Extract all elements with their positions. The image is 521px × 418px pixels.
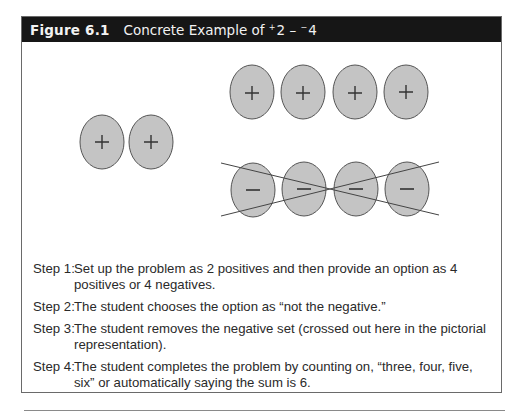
positive-counter [333,65,377,119]
step-text: The student chooses the option as “not t… [73,299,493,315]
negative-counter [282,162,326,216]
positive-counter [80,115,124,169]
step-item: Step 3: The student removes the negative… [33,321,493,353]
positive-option-counters [230,65,428,119]
step-label: Step 3: [33,321,73,353]
step-label: Step 2: [33,299,73,315]
counter-diagram [22,17,503,257]
step-item: Step 4: The student completes the proble… [33,359,493,391]
positive-counter [281,65,325,119]
steps-list: Step 1: Set up the problem as 2 positive… [33,261,493,397]
starting-set-positive-counters [80,115,173,169]
positive-counter [129,115,173,169]
bottom-separator-rule [24,410,505,411]
step-text: The student completes the problem by cou… [73,359,493,391]
negative-option-counters [221,162,439,217]
step-item: Step 2: The student chooses the option a… [33,299,493,315]
figure-box: Figure 6.1 Concrete Example of +2 – −4 [21,16,502,393]
negative-counter [334,162,378,216]
step-label: Step 4: [33,359,73,391]
positive-counter [384,65,428,119]
step-text: Set up the problem as 2 positives and th… [73,261,493,293]
step-item: Step 1: Set up the problem as 2 positive… [33,261,493,293]
positive-counter [230,65,274,119]
step-label: Step 1: [33,261,73,293]
step-text: The student removes the negative set (cr… [73,321,493,353]
